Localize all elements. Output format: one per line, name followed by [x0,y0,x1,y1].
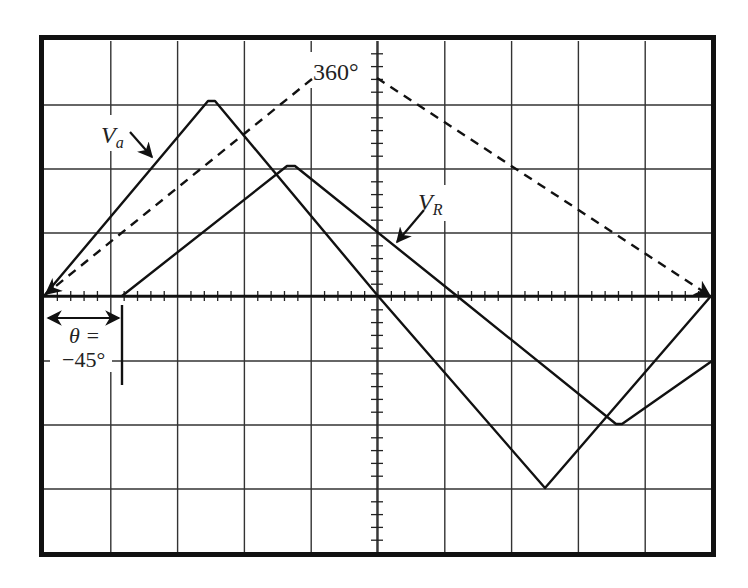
va-arrow-icon [130,132,152,157]
theta-label-line2: −45° [62,347,105,372]
theta-label-line1: θ = [69,323,100,348]
dashed-360-reference-left [46,79,312,294]
vr-arrow-icon [397,210,424,242]
full-cycle-label: 360° [313,59,359,85]
oscilloscope-figure: 360° Va VR θ = −45° [0,0,748,588]
